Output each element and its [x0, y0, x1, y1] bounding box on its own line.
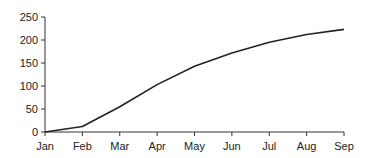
- y-tick-label: 100: [20, 80, 38, 92]
- x-tick-label: Jul: [262, 140, 276, 152]
- x-tick-label: Jan: [36, 140, 54, 152]
- x-tick-label: Mar: [110, 140, 129, 152]
- x-tick-label: Feb: [73, 140, 92, 152]
- x-tick-label: Sep: [334, 140, 354, 152]
- series-line: [45, 29, 344, 132]
- x-tick-label: Apr: [149, 140, 166, 152]
- x-tick-label: Jun: [223, 140, 241, 152]
- x-tick-label: Aug: [297, 140, 317, 152]
- x-axis: JanFebMarAprMayJunJulAugSep: [36, 132, 354, 152]
- y-tick-label: 0: [32, 126, 38, 138]
- y-tick-label: 50: [26, 103, 38, 115]
- line-chart: 050100150200250 JanFebMarAprMayJunJulAug…: [0, 0, 371, 158]
- x-tick-label: May: [184, 140, 205, 152]
- y-tick-label: 250: [20, 11, 38, 23]
- y-axis: 050100150200250: [20, 11, 45, 138]
- y-tick-label: 200: [20, 34, 38, 46]
- y-tick-label: 150: [20, 57, 38, 69]
